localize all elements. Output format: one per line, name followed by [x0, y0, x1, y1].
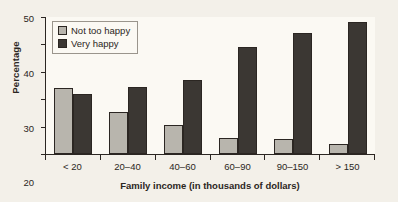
x-axis-tick-label: 40–60	[155, 161, 210, 172]
bar	[109, 112, 128, 154]
x-axis-tick	[264, 155, 265, 160]
bar-group	[156, 17, 211, 154]
legend-label: Very happy	[71, 38, 119, 49]
legend-item-not-too-happy: Not too happy	[58, 25, 130, 36]
chart-figure: Percentage 01020304050 < 2020–4040–6060–…	[0, 0, 398, 202]
x-axis-tick-label: < 20	[45, 161, 100, 172]
legend-item-very-happy: Very happy	[58, 38, 130, 49]
bar	[274, 139, 293, 154]
y-axis-title: Percentage	[10, 20, 21, 116]
bar	[164, 125, 183, 154]
x-axis-tick	[374, 155, 375, 160]
legend-label: Not too happy	[71, 25, 130, 36]
bar-group	[265, 17, 320, 154]
bar	[128, 87, 147, 154]
legend-swatch-icon	[58, 39, 67, 48]
bar-group	[210, 17, 265, 154]
bar	[54, 88, 73, 154]
x-axis-tick-label: 20–40	[100, 161, 155, 172]
x-axis-tick	[210, 155, 211, 160]
bar-group	[320, 17, 375, 154]
bar	[73, 94, 92, 154]
x-axis-tick	[319, 155, 320, 160]
bar	[329, 144, 348, 154]
bar	[348, 22, 367, 154]
x-axis-tick	[45, 155, 46, 160]
bar	[293, 33, 312, 154]
bar	[219, 138, 238, 154]
y-axis-tick-label: 40	[23, 67, 34, 78]
x-axis-tick	[155, 155, 156, 160]
y-axis-tick-label: 50	[23, 13, 34, 24]
y-axis-tick-label: 30	[23, 122, 34, 133]
x-axis-tick-label: > 150	[320, 161, 375, 172]
legend-swatch-icon	[58, 26, 67, 35]
x-axis-tick-label: 90–150	[265, 161, 320, 172]
legend: Not too happy Very happy	[52, 21, 138, 54]
x-axis-tick-label: 60–90	[210, 161, 265, 172]
x-axis-tick	[100, 155, 101, 160]
x-axis-title: Family income (in thousands of dollars)	[45, 180, 375, 191]
y-axis-tick-label: 20	[23, 177, 34, 188]
bar	[238, 47, 257, 154]
x-axis-tick-labels: < 2020–4040–6060–9090–150> 150	[45, 161, 375, 172]
bar	[183, 80, 202, 154]
